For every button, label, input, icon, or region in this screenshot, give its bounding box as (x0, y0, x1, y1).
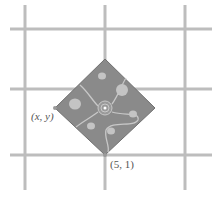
label-corner-5-1: (5, 1) (110, 158, 134, 170)
park-square (55, 59, 155, 155)
diagram-canvas: (x, y) (5, 1) (0, 0, 220, 199)
label-corner-xy: (x, y) (31, 110, 54, 122)
fountain-icon (98, 101, 112, 115)
